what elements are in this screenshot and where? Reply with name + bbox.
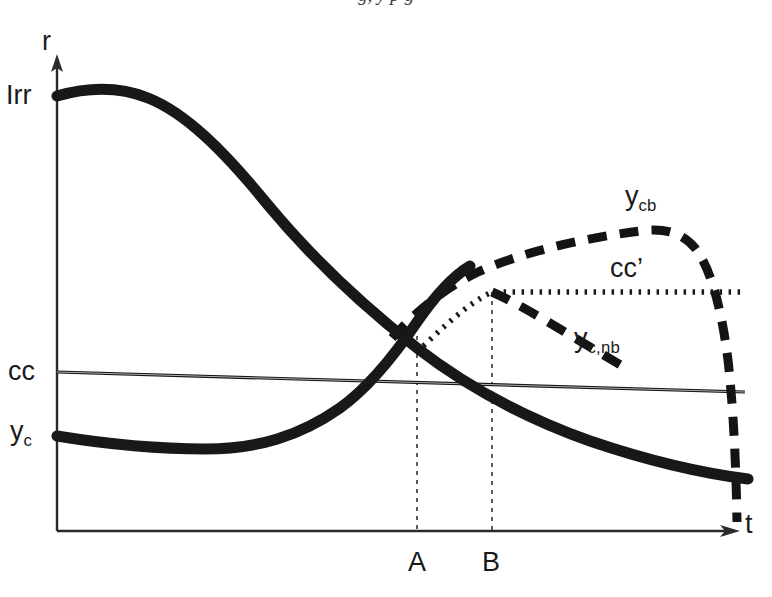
series-irr-curve — [57, 90, 748, 480]
guide-lines-group — [417, 292, 492, 531]
plot-canvas — [0, 0, 772, 597]
y-tick-label-yc-main: y — [10, 416, 24, 446]
series-label-ycb: ycb — [625, 183, 657, 215]
chart-figure: g, y p g r t Irr cc — [0, 0, 772, 597]
series-label-ycnb: yc,nb — [574, 325, 620, 357]
series-ycb-curve — [392, 230, 737, 522]
x-tick-label-b: B — [482, 549, 500, 576]
x-tick-label-a: A — [408, 549, 426, 576]
series-label-ycnb-sub: c,nb — [588, 338, 620, 357]
series-cc-line-highlight — [57, 372, 745, 392]
y-tick-label-yc: yc — [10, 418, 32, 450]
y-tick-label-irr: Irr — [6, 82, 31, 109]
series-label-ycnb-main: y — [574, 323, 588, 353]
axes-group — [51, 54, 740, 537]
x-axis-label: t — [745, 511, 753, 538]
y-axis-label: r — [42, 28, 51, 55]
series-label-ccprime: cc’ — [610, 255, 643, 282]
y-tick-label-yc-sub: c — [24, 431, 33, 450]
series-label-ycb-main: y — [625, 181, 639, 211]
series-yc-curve — [57, 266, 470, 449]
series-label-ycb-sub: cb — [639, 196, 657, 215]
y-tick-label-cc: cc — [8, 358, 35, 385]
